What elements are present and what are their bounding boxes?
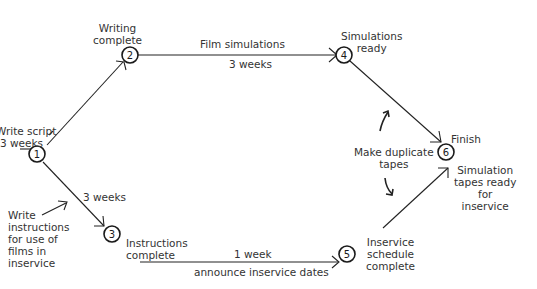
text-line: tapes ready: [454, 176, 516, 188]
node-5: 5: [339, 246, 355, 262]
text-line: Make duplicate: [354, 146, 434, 158]
label-instructions-duration: 3 weeks: [83, 191, 126, 203]
text-line: inservice: [454, 200, 516, 212]
label-writing-complete: Writing complete: [93, 22, 142, 46]
text-line: ready: [341, 42, 402, 54]
text-line: for use of: [8, 233, 70, 245]
node-6: 6: [438, 144, 454, 160]
text-line: Simulations: [341, 30, 402, 42]
label-announce-dates: announce inservice dates: [194, 266, 329, 278]
label-inservice-schedule-complete: Inservice schedule complete: [366, 236, 415, 272]
text-line: 3 weeks: [0, 137, 56, 149]
label-write-script: Write script 3 weeks: [0, 125, 56, 149]
text-line: inservice: [8, 257, 70, 269]
svg-text:6: 6: [443, 147, 449, 158]
node-2: 2: [122, 47, 138, 63]
text-line: instructions: [8, 221, 70, 233]
label-film-duration: 3 weeks: [229, 58, 272, 70]
label-finish: Finish: [451, 133, 481, 145]
text-line: Inservice: [366, 236, 415, 248]
svg-text:5: 5: [344, 249, 350, 260]
text-line: Write: [8, 209, 70, 221]
svg-text:3: 3: [109, 229, 115, 240]
text-line: schedule: [366, 248, 415, 260]
label-simulation-tapes-ready: Simulation tapes ready for inservice: [454, 164, 516, 212]
svg-text:1: 1: [34, 149, 40, 160]
text-line: Writing: [93, 22, 142, 34]
node-3: 3: [104, 226, 120, 242]
label-write-instructions: Write instructions for use of films in i…: [8, 209, 70, 269]
svg-text:2: 2: [127, 50, 133, 61]
text-line: tapes: [354, 158, 434, 170]
edge-5-6: [383, 168, 448, 228]
label-announce-duration: 1 week: [234, 248, 272, 260]
text-line: films in: [8, 245, 70, 257]
text-line: Instructions: [126, 237, 188, 249]
text-line: complete: [126, 249, 188, 261]
text-line: for: [454, 188, 516, 200]
text-line: complete: [366, 260, 415, 272]
label-simulations-ready: Simulations ready: [341, 30, 402, 54]
label-make-duplicate-tapes: Make duplicate tapes: [354, 146, 434, 170]
pointer-arrow-icon: [380, 112, 388, 131]
label-film-simulations: Film simulations: [200, 38, 285, 50]
label-instructions-complete: Instructions complete: [126, 237, 188, 261]
pointer-arrow-icon: [385, 178, 392, 194]
edge-1-2: [47, 62, 123, 145]
text-line: Write script: [0, 125, 56, 137]
text-line: Simulation: [454, 164, 516, 176]
text-line: complete: [93, 34, 142, 46]
edge-4-6: [350, 61, 441, 142]
